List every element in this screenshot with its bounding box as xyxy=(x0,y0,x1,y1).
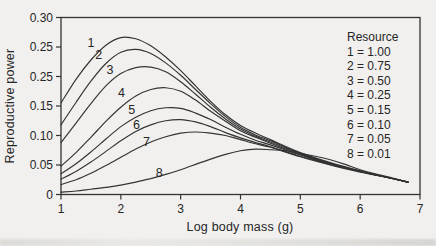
curve-label-7: 7 xyxy=(143,135,150,149)
legend-entries: 1 = 1.002 = 0.753 = 0.504 = 0.255 = 0.15… xyxy=(347,45,398,162)
legend-entry: 5 = 0.15 xyxy=(347,103,398,118)
legend: Resource 1 = 1.002 = 0.753 = 0.504 = 0.2… xyxy=(347,30,398,161)
curve-label-5: 5 xyxy=(128,103,135,117)
legend-entry: 1 = 1.00 xyxy=(347,45,398,60)
y-axis-title: Reproductive power xyxy=(3,31,19,181)
y-tick-label: 0.25 xyxy=(30,70,54,84)
x-tick-label: 1 xyxy=(58,202,65,216)
x-axis-title: Log body mass (g) xyxy=(45,220,435,234)
curve-label-2: 2 xyxy=(95,48,102,62)
y-tick-label: 0.30 xyxy=(30,11,54,25)
legend-entry: 7 = 0.05 xyxy=(347,132,398,147)
y-tick-label: 0.15 xyxy=(30,99,54,113)
curve-label-6: 6 xyxy=(133,118,140,132)
x-tick-label: 3 xyxy=(177,202,184,216)
curve-label-8: 8 xyxy=(156,166,163,180)
x-tick-label: 4 xyxy=(237,202,244,216)
x-tick-label: 2 xyxy=(117,202,124,216)
legend-entry: 3 = 0.50 xyxy=(347,74,398,89)
x-tick-label: 5 xyxy=(297,202,304,216)
legend-entry: 6 = 0.10 xyxy=(347,118,398,133)
legend-title: Resource xyxy=(347,30,398,45)
y-tick-label: 0 xyxy=(46,188,53,202)
y-tick-label: 0.25 xyxy=(30,40,54,54)
curve-label-4: 4 xyxy=(118,86,125,100)
reproductive-power-figure: 0.300.250.250.150.100.0501234567 1234567… xyxy=(0,0,436,246)
legend-entry: 8 = 0.01 xyxy=(347,147,398,162)
legend-entry: 2 = 0.75 xyxy=(347,59,398,74)
scan-artifact xyxy=(0,239,436,246)
curve-label-3: 3 xyxy=(107,63,114,77)
x-tick-label: 7 xyxy=(417,202,424,216)
y-tick-label: 0.10 xyxy=(30,129,54,143)
legend-entry: 4 = 0.25 xyxy=(347,88,398,103)
y-tick-label: 0.05 xyxy=(30,158,54,172)
curve-label-1: 1 xyxy=(87,36,94,50)
x-tick-label: 6 xyxy=(357,202,364,216)
